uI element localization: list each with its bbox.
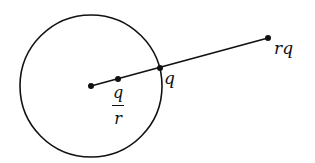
inversion-diagram <box>0 0 315 163</box>
label-q-over-r: q r <box>110 83 126 128</box>
point-q-over-r <box>115 76 121 82</box>
label-q: q <box>164 70 175 87</box>
label-rq: rq <box>274 40 293 57</box>
frac-denominator: r <box>114 109 122 128</box>
point-rq <box>265 35 271 41</box>
center-point <box>88 83 94 89</box>
frac-bar <box>112 105 124 106</box>
frac-numerator: q <box>113 83 123 102</box>
point-q <box>157 65 163 71</box>
